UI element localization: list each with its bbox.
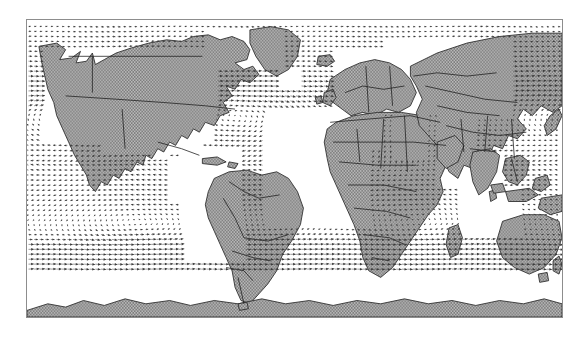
vector-field-layer [27, 20, 562, 317]
map-plot-area [27, 20, 562, 317]
figure-root [0, 0, 588, 338]
map-frame [26, 19, 563, 318]
